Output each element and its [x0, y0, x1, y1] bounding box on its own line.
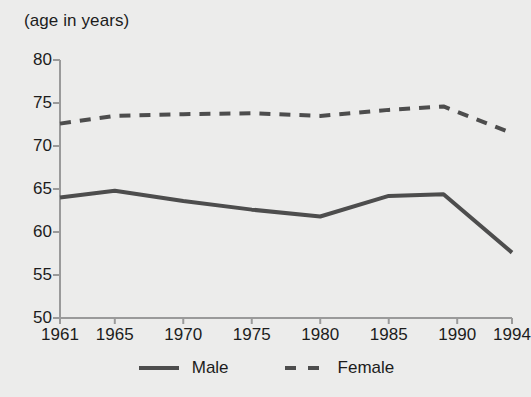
x-tick-label-1970: 1970	[164, 325, 202, 345]
legend-swatch-male-solid-line	[137, 361, 181, 375]
y-tick-label-80: 80	[18, 50, 52, 70]
x-tick-label-1985: 1985	[370, 325, 408, 345]
chart-legend: Male Female	[0, 358, 531, 378]
legend-label-male: Male	[192, 358, 229, 378]
x-tick-label-1990: 1990	[438, 325, 476, 345]
legend-swatch-female-dashed-line	[283, 361, 327, 375]
y-tick-label-55: 55	[18, 265, 52, 285]
chart-title: (age in years)	[24, 11, 129, 31]
series-line-male	[60, 191, 512, 253]
y-tick-label-75: 75	[18, 93, 52, 113]
x-tick-label-1961: 1961	[41, 325, 79, 345]
legend-label-female: Female	[338, 358, 395, 378]
y-tick-label-70: 70	[18, 136, 52, 156]
legend-item-female: Female	[283, 358, 395, 378]
x-tick-label-1994: 1994	[493, 325, 531, 345]
line-chart: (age in years) 50556065707580 1961196519…	[0, 0, 531, 397]
x-tick-label-1980: 1980	[301, 325, 339, 345]
legend-item-male: Male	[137, 358, 229, 378]
x-tick-label-1975: 1975	[233, 325, 271, 345]
x-tick-label-1965: 1965	[96, 325, 134, 345]
series-line-female	[60, 106, 512, 133]
y-tick-label-65: 65	[18, 179, 52, 199]
y-tick-label-60: 60	[18, 222, 52, 242]
